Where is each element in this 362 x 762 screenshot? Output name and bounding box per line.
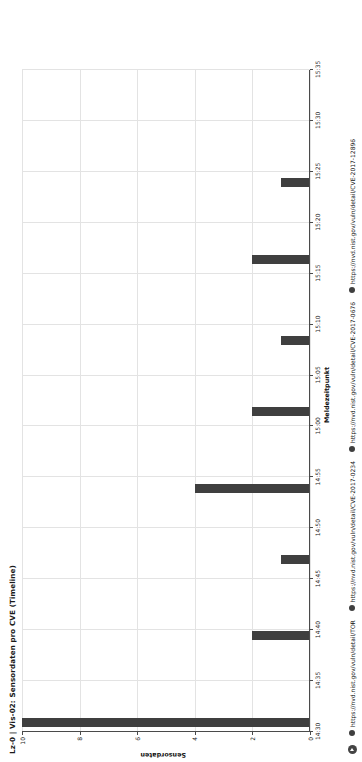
x-tick-label: 14:45 bbox=[314, 570, 321, 587]
chart-legend: https://nvd.nist.gov/vuln/detail/TORhttp… bbox=[344, 4, 360, 754]
bar[interactable] bbox=[252, 631, 310, 640]
gridline-vertical bbox=[22, 375, 310, 376]
gridline-vertical bbox=[22, 120, 310, 121]
x-tick-label: 15:05 bbox=[314, 366, 321, 383]
gridline-vertical bbox=[22, 527, 310, 528]
x-tick-mark bbox=[310, 629, 313, 630]
x-tick-label: 15:15 bbox=[314, 264, 321, 281]
y-tick-mark bbox=[80, 732, 81, 735]
gridline-vertical bbox=[22, 324, 310, 325]
x-tick-label: 15:30 bbox=[314, 112, 321, 129]
x-tick-mark bbox=[310, 425, 313, 426]
bar[interactable] bbox=[195, 484, 310, 493]
bar[interactable] bbox=[22, 718, 310, 727]
chart-title: Lz-0 | Vis-02: Sensordaten pro CVE (Time… bbox=[8, 565, 17, 754]
y-tick-label: 0 bbox=[307, 737, 314, 754]
y-tick-mark bbox=[310, 732, 311, 735]
legend-label: https://nvd.nist.gov/vuln/detail/CVE-201… bbox=[349, 302, 356, 443]
x-tick-mark bbox=[310, 375, 313, 376]
gridline-horizontal bbox=[195, 70, 196, 732]
legend-label: https://nvd.nist.gov/vuln/detail/CVE-201… bbox=[349, 461, 356, 602]
y-tick-mark bbox=[195, 732, 196, 735]
x-tick-label: 15:00 bbox=[314, 417, 321, 434]
x-axis-line bbox=[309, 70, 310, 732]
chart-canvas: Lz-0 | Vis-02: Sensordaten pro CVE (Time… bbox=[0, 0, 362, 762]
legend-label: https://nvd.nist.gov/vuln/detail/CVE-201… bbox=[349, 139, 356, 284]
bar[interactable] bbox=[281, 178, 310, 187]
x-tick-mark bbox=[310, 680, 313, 681]
y-tick-label: 8 bbox=[76, 737, 83, 754]
gridline-vertical bbox=[22, 680, 310, 681]
gridline-vertical bbox=[22, 171, 310, 172]
play-circle-icon[interactable] bbox=[348, 745, 357, 754]
x-tick-label: 14:35 bbox=[314, 672, 321, 689]
x-tick-label: 14:30 bbox=[314, 723, 321, 740]
gridline-vertical bbox=[22, 578, 310, 579]
gridline-horizontal bbox=[310, 70, 311, 732]
gridline-vertical bbox=[22, 273, 310, 274]
x-tick-label: 15:35 bbox=[314, 61, 321, 78]
x-tick-label: 15:25 bbox=[314, 163, 321, 180]
bar[interactable] bbox=[252, 407, 310, 416]
y-axis-line bbox=[22, 731, 310, 732]
legend-swatch-icon bbox=[349, 446, 355, 452]
y-tick-mark bbox=[137, 732, 138, 735]
y-tick-label: 4 bbox=[191, 737, 198, 754]
x-tick-label: 14:55 bbox=[314, 468, 321, 485]
x-tick-mark bbox=[310, 527, 313, 528]
legend-item[interactable]: https://nvd.nist.gov/vuln/detail/TOR bbox=[349, 620, 356, 736]
x-axis-label: Meldezeitpunkt bbox=[323, 367, 331, 423]
x-tick-mark bbox=[310, 120, 313, 121]
plot-area bbox=[22, 70, 310, 732]
gridline-vertical bbox=[22, 629, 310, 630]
x-tick-label: 14:40 bbox=[314, 621, 321, 638]
x-tick-label: 15:20 bbox=[314, 213, 321, 230]
gridline-vertical bbox=[22, 69, 310, 70]
x-tick-mark bbox=[310, 171, 313, 172]
x-tick-mark bbox=[310, 273, 313, 274]
legend-swatch-icon bbox=[349, 605, 355, 611]
x-tick-mark bbox=[310, 578, 313, 579]
gridline-vertical bbox=[22, 222, 310, 223]
y-tick-label: 10 bbox=[19, 737, 26, 754]
bar[interactable] bbox=[252, 255, 310, 264]
legend-label: https://nvd.nist.gov/vuln/detail/TOR bbox=[349, 620, 356, 727]
legend-swatch-icon bbox=[349, 730, 355, 736]
bar[interactable] bbox=[281, 336, 310, 345]
bar[interactable] bbox=[281, 555, 310, 564]
legend-item[interactable]: https://nvd.nist.gov/vuln/detail/CVE-201… bbox=[349, 139, 356, 293]
gridline-vertical bbox=[22, 425, 310, 426]
rotated-chart-frame: Lz-0 | Vis-02: Sensordaten pro CVE (Time… bbox=[0, 0, 362, 762]
y-tick-label: 2 bbox=[249, 737, 256, 754]
y-tick-mark bbox=[22, 732, 23, 735]
x-tick-label: 15:10 bbox=[314, 315, 321, 332]
x-tick-mark bbox=[310, 476, 313, 477]
x-tick-mark bbox=[310, 69, 313, 70]
gridline-horizontal bbox=[22, 70, 23, 732]
x-tick-label: 14:50 bbox=[314, 519, 321, 536]
legend-item[interactable]: https://nvd.nist.gov/vuln/detail/CVE-201… bbox=[349, 302, 356, 452]
gridline-horizontal bbox=[137, 70, 138, 732]
y-axis-label: Sensordaten bbox=[140, 751, 186, 759]
x-tick-mark bbox=[310, 222, 313, 223]
y-tick-mark bbox=[252, 732, 253, 735]
legend-item[interactable]: https://nvd.nist.gov/vuln/detail/CVE-201… bbox=[349, 461, 356, 611]
legend-swatch-icon bbox=[349, 287, 355, 293]
gridline-horizontal bbox=[80, 70, 81, 732]
gridline-vertical bbox=[22, 476, 310, 477]
x-tick-mark bbox=[310, 324, 313, 325]
